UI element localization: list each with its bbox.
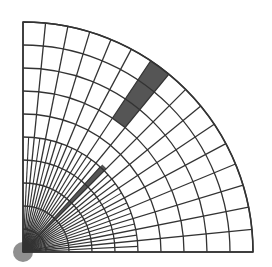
polar-mesh-diagram [0, 0, 272, 267]
origin-dense-region [13, 242, 33, 262]
spoke-lines [23, 22, 253, 252]
spoke-line [23, 164, 235, 252]
upper-shaded-band [112, 61, 168, 128]
mesh-svg [0, 0, 272, 267]
spoke-line [23, 49, 131, 252]
spoke-line [23, 40, 111, 252]
spoke-line [23, 144, 226, 252]
